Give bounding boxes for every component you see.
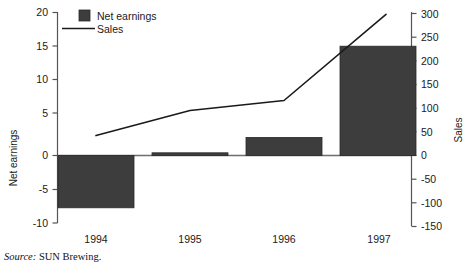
right-tick-label: 250	[421, 31, 439, 43]
left-tick-label: -5	[39, 183, 48, 195]
bar-1994	[58, 156, 134, 208]
left-tick-label: 10	[36, 73, 48, 85]
right-tick-label: 150	[421, 78, 439, 90]
legend-label-sales: Sales	[97, 23, 123, 35]
bar-series-net-earnings	[58, 46, 416, 208]
category-label: 1994	[84, 233, 108, 245]
bar-1996	[246, 137, 322, 155]
bar-1995	[152, 153, 228, 156]
right-axis-title: Sales	[453, 117, 464, 142]
bar-1997	[340, 46, 416, 155]
chart-figure: 20 15 10 5 0 -5 -10 300 250 200 150	[0, 0, 470, 270]
left-tick-label: 0	[42, 149, 48, 161]
source-note: Source: SUN Brewing.	[4, 251, 101, 262]
source-label: Source:	[4, 251, 36, 262]
category-label: 1996	[272, 233, 296, 245]
chart-legend: Net earnings Sales	[62, 10, 157, 35]
left-tick-label: 5	[42, 107, 48, 119]
x-axis-category-labels: 1994 1995 1996 1997	[84, 233, 391, 245]
left-axis-title: Net earnings	[8, 130, 19, 187]
right-axis-tick-labels: 300 250 200 150 100 50 0 -50 -100 -150	[421, 8, 442, 233]
left-axis-ticks	[53, 13, 58, 224]
right-tick-label: 100	[421, 102, 439, 114]
legend-swatch-net-earnings	[79, 10, 90, 21]
source-text: SUN Brewing.	[39, 251, 101, 262]
category-label: 1995	[178, 233, 202, 245]
left-tick-label: 20	[36, 6, 48, 18]
left-axis-tick-labels: 20 15 10 5 0 -5 -10	[33, 6, 48, 229]
left-tick-label: 15	[36, 40, 48, 52]
category-label: 1997	[367, 233, 391, 245]
right-tick-label: 300	[421, 8, 439, 20]
right-tick-label: 200	[421, 55, 439, 67]
right-tick-label: 50	[421, 126, 433, 138]
legend-label-net-earnings: Net earnings	[97, 10, 157, 22]
right-tick-label: -100	[421, 197, 442, 209]
right-tick-label: 0	[421, 149, 427, 161]
right-tick-label: -50	[421, 173, 436, 185]
right-tick-label: -150	[421, 220, 442, 232]
chart-canvas: 20 15 10 5 0 -5 -10 300 250 200 150	[0, 0, 470, 270]
left-tick-label: -10	[33, 217, 48, 229]
